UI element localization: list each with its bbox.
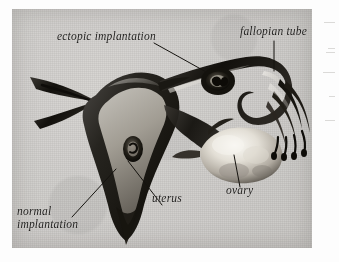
leader-line-ectopic [154, 43, 208, 73]
margin-bleed-mark [326, 52, 335, 53]
margin-bleed-mark [324, 22, 335, 23]
label-uterus: uterus [152, 192, 182, 205]
ectopic-implantation-embryo [201, 67, 235, 95]
label-normal-implantation-line2: implantation [17, 218, 78, 231]
label-fallopian-tube: fallopian tube [240, 25, 307, 38]
margin-bleed-mark [329, 96, 335, 97]
label-ectopic-implantation: ectopic implantation [57, 30, 156, 43]
margin-bleed-mark [325, 120, 335, 121]
label-normal-implantation: normal implantation [17, 205, 78, 231]
normal-implantation-embryo [123, 136, 143, 162]
margin-bleed-mark [323, 72, 335, 73]
figure-root: ectopic implantation fallopian tube ovar… [0, 0, 339, 262]
margin-bleed-mark [328, 48, 335, 49]
label-ovary: ovary [226, 184, 253, 197]
label-normal-implantation-line1: normal [17, 205, 78, 218]
